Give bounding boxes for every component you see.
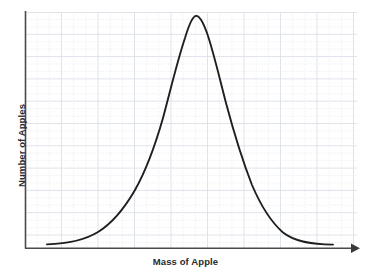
y-axis-label: Number of Apples bbox=[16, 86, 27, 206]
chart-container: Number of Apples Mass of Apple bbox=[0, 0, 371, 275]
bell-curve-path bbox=[47, 16, 333, 245]
distribution-curve bbox=[0, 0, 371, 275]
x-axis-label: Mass of Apple bbox=[0, 256, 371, 267]
